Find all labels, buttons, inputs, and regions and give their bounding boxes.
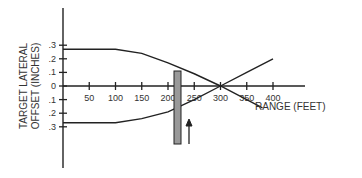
svg-text:100: 100 — [108, 93, 123, 103]
x-axis-label: RANGE (FEET) — [255, 101, 326, 112]
y-ticks: .3.2.10.1.2.3 — [48, 40, 67, 132]
svg-text:.1: .1 — [48, 67, 56, 77]
svg-text:300: 300 — [213, 93, 228, 103]
chart-canvas: 50100150200250300350400 .3.2.10.1.2.3 RA… — [0, 0, 362, 178]
shaded-bar — [174, 71, 181, 144]
lower-trajectory — [63, 59, 273, 123]
x-ticks: 50100150200250300350400 — [84, 82, 280, 103]
svg-text:0: 0 — [51, 81, 56, 91]
svg-text:.2: .2 — [48, 108, 56, 118]
svg-text:.1: .1 — [48, 95, 56, 105]
svg-text:.3: .3 — [48, 122, 56, 132]
svg-text:.3: .3 — [48, 40, 56, 50]
y-axis-label-line2: OFFSET (INCHES) — [30, 43, 41, 129]
arrow-icon — [186, 119, 192, 144]
chart: 50100150200250300350400 .3.2.10.1.2.3 RA… — [0, 0, 362, 178]
svg-text:350: 350 — [239, 93, 254, 103]
svg-text:.2: .2 — [48, 54, 56, 64]
svg-text:200: 200 — [160, 93, 175, 103]
svg-text:150: 150 — [134, 93, 149, 103]
svg-text:50: 50 — [84, 93, 94, 103]
y-axis-label-line1: TARGET LATERAL — [18, 42, 29, 129]
